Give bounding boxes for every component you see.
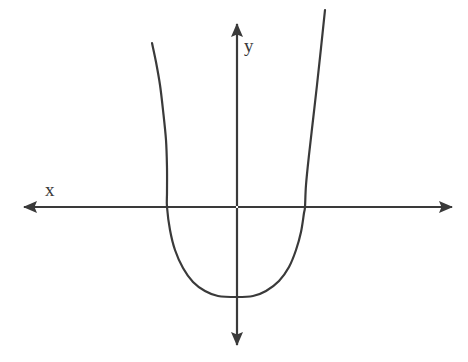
- coordinate-plane-svg: [0, 0, 468, 362]
- x-axis-label: x: [45, 180, 55, 199]
- parabola-curve: [152, 10, 325, 297]
- parabola-figure: x y: [0, 0, 468, 362]
- y-axis-label: y: [244, 36, 254, 55]
